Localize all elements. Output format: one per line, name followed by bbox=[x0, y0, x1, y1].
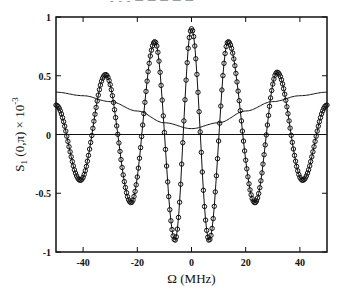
x-axis-label: Ω (MHz) bbox=[167, 271, 215, 286]
y-tick-label: 1 bbox=[46, 12, 51, 23]
y-tick-label: -0.5 bbox=[35, 188, 51, 199]
y-tick-label: -1 bbox=[43, 247, 51, 258]
x-tick-label: 0 bbox=[189, 257, 194, 268]
x-tick-label: -40 bbox=[76, 257, 89, 268]
x-tick-label: -20 bbox=[131, 257, 144, 268]
x-tick-label: 40 bbox=[295, 257, 305, 268]
y-tick-label: 0 bbox=[46, 130, 51, 141]
y-tick-label: 0.5 bbox=[39, 71, 52, 82]
y-axis-label: S1 (0,π) × 10-3 bbox=[10, 97, 29, 172]
x-tick-label: 20 bbox=[241, 257, 251, 268]
chart: -40-200204010.50-0.5-1Ω (MHz)S1 (0,π) × … bbox=[0, 0, 337, 303]
